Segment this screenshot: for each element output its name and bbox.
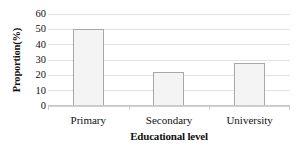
x-axis-tick: [209, 105, 210, 110]
x-axis-tick: [289, 105, 290, 110]
y-axis-tick-label: 60: [22, 8, 46, 19]
y-axis-tick-label: 20: [22, 69, 46, 80]
x-axis-tick: [48, 105, 49, 110]
bar-slot: [209, 14, 290, 106]
bar[interactable]: [153, 72, 184, 106]
bar-slot: [129, 14, 210, 106]
x-axis-tick-label: Primary: [48, 112, 129, 128]
x-axis-ticks: [48, 105, 290, 110]
bar[interactable]: [234, 63, 265, 106]
y-axis-tick-labels: 6050403020100: [22, 8, 46, 112]
bar-slot: [48, 14, 129, 106]
y-axis-tick-label: 30: [22, 54, 46, 65]
y-axis-tick-label: 40: [22, 39, 46, 50]
bar-series: [48, 14, 290, 106]
x-axis-tick-labels: PrimarySecondaryUniversity: [48, 112, 290, 128]
x-axis-tick-label: Secondary: [129, 112, 210, 128]
plot-area: [48, 14, 290, 106]
bar-chart: Proportion(%) 6050403020100 PrimarySecon…: [0, 0, 298, 149]
x-axis-title: Educational level: [48, 129, 290, 143]
x-axis-tick: [129, 105, 130, 110]
bar[interactable]: [73, 29, 104, 106]
y-axis-tick-label: 0: [22, 100, 46, 111]
y-axis-tick-label: 10: [22, 85, 46, 96]
y-axis-tick-label: 50: [22, 23, 46, 34]
x-axis-tick-label: University: [209, 112, 290, 128]
